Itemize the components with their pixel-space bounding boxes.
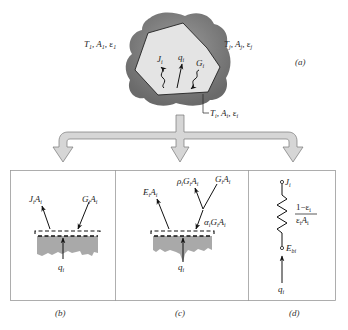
panel-a: Ji qi Gi T1, A1, ε1 Tj, Aj, εj Ti, Ai, ε… — [84, 13, 306, 120]
resistance-numerator: 1−εi — [296, 202, 311, 213]
incoming-arrow-b — [78, 202, 89, 229]
incident-reflected-arrow-c — [195, 184, 217, 209]
panel-label-d: (d) — [289, 308, 300, 318]
resistance-denominator: εiAi — [296, 215, 309, 226]
resistor-icon — [277, 184, 287, 246]
label-alphaGiAi: αiGiAi — [204, 217, 226, 228]
node-Ji — [280, 180, 283, 183]
label-EiAi: EiAi — [142, 187, 158, 198]
label-surface-1: T1, A1, ε1 — [84, 39, 116, 50]
label-surface-j: Tj, Aj, εj — [224, 39, 252, 50]
label-surface-i: Ti, Ai, εi — [210, 108, 238, 119]
label-GiAi: GiAi — [82, 194, 98, 205]
label-Ebi-node: Ebi — [285, 243, 297, 254]
panel-d: Ji Ebi 1−εi εiAi qi (d) — [277, 177, 317, 318]
panel-label-a: (a) — [295, 57, 306, 67]
absorbed-arrow-c — [196, 210, 203, 229]
control-surface-c — [151, 231, 214, 234]
control-surface-b — [35, 231, 100, 234]
label-GiAi-c: GiAi — [215, 174, 231, 185]
label-rhoGiAi: ρiGiAi — [176, 176, 199, 187]
outgoing-arrow-b — [42, 206, 50, 229]
panel-c: EiAi ρiGiAi GiAi αiGiAi qi (c) — [142, 174, 231, 318]
label-qi-d: qi — [278, 284, 285, 295]
radiation-exchange-diagram: Ji qi Gi T1, A1, ε1 Tj, Aj, εj Ti, Ai, ε… — [0, 0, 348, 330]
label-JiAi: JiAi — [29, 194, 42, 205]
panel-b: JiAi GiAi qi (b) — [29, 194, 100, 318]
label-qi-c: qi — [178, 262, 185, 273]
solid-surface-b — [37, 236, 98, 256]
branching-arrow-icon — [53, 115, 303, 162]
label-Ji-node: Ji — [285, 177, 291, 188]
panel-label-c: (c) — [175, 308, 185, 318]
label-qi-b: qi — [58, 262, 65, 273]
emitted-arrow-c — [157, 199, 169, 229]
panel-label-b: (b) — [55, 308, 66, 318]
node-Ebi — [280, 246, 283, 249]
